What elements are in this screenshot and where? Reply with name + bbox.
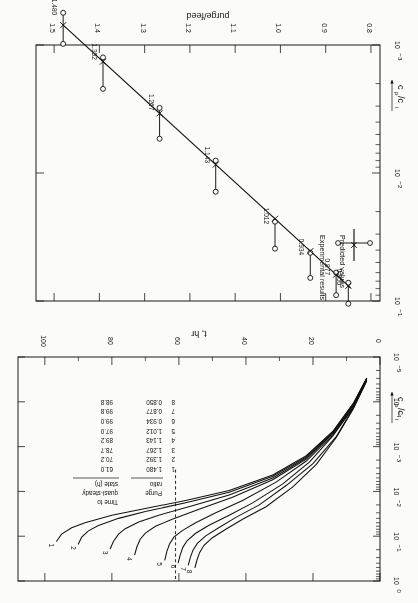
top-y-tick-label-0: 100 (393, 577, 403, 593)
top-panel-x-axis-title: t, hr (191, 329, 207, 339)
table-row-time-7: 99.8 (100, 408, 113, 415)
curve-label-8: 8 (186, 570, 193, 574)
top-y-tick-label--5-text: 10 (393, 353, 400, 361)
table-row-time-1: 61.0 (100, 466, 113, 473)
top-y-tick-label--2: 10−2 (393, 488, 403, 508)
top-y-tick-label--1-text: 10 (393, 532, 400, 540)
table-col2-header-line2: quasi-steady (81, 489, 118, 497)
top-panel-x-ticks: 020406080100 (40, 335, 382, 581)
top-panel-curve-labels: 12345678 (48, 543, 193, 573)
curve-label-1: 1 (48, 543, 55, 547)
bottom-panel-y-slash: /c (396, 96, 406, 104)
curve-label-5: 5 (156, 562, 163, 566)
error-cap-high-1.392 (100, 86, 105, 91)
data-point-1.480 (60, 10, 66, 46)
top-curve-4 (135, 379, 367, 555)
error-cap-high-0.934 (308, 275, 313, 280)
point-label-1.267: 1.267 (148, 94, 155, 111)
table-row-index-1: 1 (171, 466, 175, 473)
bot-x-tick-label-5: 1.3 (140, 23, 147, 33)
bottom-panel-x-axis-title: purge/feed (186, 11, 229, 21)
table-row-purge-2: 1.392 (146, 456, 162, 463)
bot-y-tick-label--3: 10−3 (394, 41, 404, 61)
quasi-steady-table-rows: 11.48061.021.39270.231.26778.741.14389.2… (100, 399, 175, 473)
top-y-tick-label--3: 10−3 (393, 443, 403, 463)
bottom-panel-y-sub-i: i (395, 107, 402, 108)
bot-x-tick-label-7: 1.5 (49, 23, 56, 33)
top-y-tick-label--5-exp: −5 (396, 366, 403, 374)
bot-y-tick-label--1-exp: −1 (397, 310, 404, 318)
table-row-time-2: 70.2 (100, 456, 113, 463)
top-y-tick-label-0-text: 10 (393, 577, 400, 585)
table-col2-header-line1: Time to (97, 499, 118, 506)
table-row-index-2: 2 (171, 456, 175, 463)
error-cap-low-1.267 (157, 105, 162, 110)
table-row-purge-1: 1.480 (146, 466, 162, 473)
top-y-tick-label--1-exp: −1 (396, 545, 403, 553)
bottom-panel-legend: Experimental results Predicted values (318, 229, 372, 301)
data-point-1.012 (272, 216, 278, 251)
point-label-1.392: 1.392 (91, 43, 98, 60)
bot-x-tick-label-6: 1.4 (94, 23, 101, 33)
error-cap-high-0.850 (346, 301, 351, 306)
bot-x-tick-label-2: 1.0 (275, 23, 282, 33)
error-cap-high-1.267 (157, 136, 162, 141)
bottom-panel-y-axis-title: c p /c i (390, 80, 406, 111)
bot-y-tick-label--1-text: 10 (394, 297, 401, 305)
top-panel: 10010−110−210−310−410−5 020406080100 123… (0, 313, 418, 603)
top-panel-y-sub-i: i (395, 419, 402, 420)
top-y-tick-label--5: 10−5 (393, 353, 403, 373)
table-row-index-8: 8 (171, 399, 175, 406)
curve-label-4: 4 (126, 557, 133, 561)
bottom-panel-y-ticks: 10−110−210−3 (36, 41, 404, 317)
top-x-tick-label-2: 40 (241, 337, 248, 345)
table-row-purge-6: 0.934 (146, 418, 162, 425)
table-col1-header-line2: ratio (149, 481, 162, 488)
point-label-1.143: 1.143 (204, 147, 211, 164)
error-cap-high-1.143 (213, 189, 218, 194)
bot-x-tick-label-1: 0.9 (321, 23, 328, 33)
top-panel-y-slash: /c (396, 408, 406, 416)
data-point-1.267 (157, 105, 163, 141)
top-y-tick-label--2-exp: −2 (396, 500, 403, 508)
data-point-0.934 (307, 248, 313, 280)
curve-label-2: 2 (70, 546, 77, 550)
error-cap-low-1.480 (61, 10, 66, 15)
top-y-tick-label--3-exp: −3 (396, 455, 403, 463)
bot-x-tick-label-3: 1.1 (230, 23, 237, 33)
curve-label-6: 6 (170, 565, 177, 569)
table-row-purge-7: 0.877 (146, 408, 162, 415)
table-row-index-5: 5 (171, 428, 175, 435)
table-row-index-7: 7 (171, 408, 175, 415)
error-cap-high-0.877 (334, 293, 339, 298)
top-curve-5 (165, 380, 367, 560)
table-row-purge-5: 1.012 (146, 428, 162, 435)
top-curve-2 (78, 378, 366, 544)
bot-y-tick-label--2-exp: −2 (397, 182, 404, 190)
point-label-1.012: 1.012 (263, 208, 270, 225)
bottom-panel-svg: 10−110−210−3 0.80.91.01.11.21.31.41.5 0.… (0, 0, 418, 313)
bot-y-tick-label--3-exp: −3 (397, 54, 404, 62)
bot-x-tick-label-0: 0.8 (366, 23, 373, 33)
top-panel-y-axis-title: c p /c i (390, 392, 406, 423)
table-row-time-6: 99.0 (100, 418, 113, 425)
top-panel-y-axis-title-text: c (396, 397, 406, 402)
point-label-0.934: 0.934 (298, 239, 305, 256)
table-row-time-8: 98.8 (100, 399, 113, 406)
quasi-steady-table: Purge ratio Time to quasi-steady state (… (73, 399, 175, 506)
legend-experimental-label: Experimental results (318, 235, 327, 301)
curve-label-7: 7 (180, 567, 187, 571)
top-x-tick-label-0: 0 (375, 339, 382, 343)
table-row-time-4: 89.2 (100, 437, 113, 444)
bot-x-tick-label-4: 1.2 (185, 23, 192, 33)
figure-page: 10010−110−210−310−410−5 020406080100 123… (0, 0, 418, 603)
top-x-tick-label-5: 100 (40, 335, 47, 347)
table-col1-header-line1: Purge (145, 489, 162, 497)
top-y-tick-label-0-exp: 0 (396, 590, 403, 594)
table-row-purge-8: 0.850 (146, 399, 162, 406)
top-x-tick-label-3: 60 (174, 337, 181, 345)
experimental-point-labels: 0.8500.8770.9341.0121.1431.2671.3921.480 (51, 0, 343, 286)
error-cap-low-1.392 (100, 55, 105, 60)
error-cap-high-1.480 (61, 41, 66, 46)
top-x-tick-label-1: 20 (308, 337, 315, 345)
